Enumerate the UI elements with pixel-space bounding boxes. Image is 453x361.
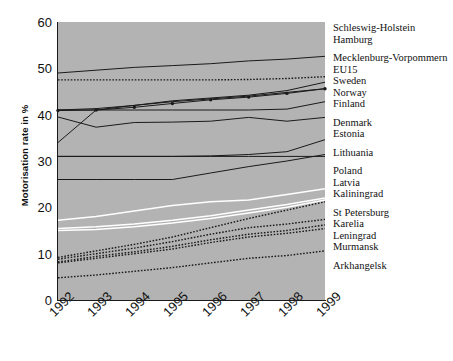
series-marker-sweden <box>247 95 250 98</box>
series-line-karelia <box>58 219 325 259</box>
series-marker-sweden <box>323 87 326 90</box>
legend-item-arkhangelsk: Arkhangelsk <box>333 260 451 272</box>
legend-group-1: Mecklenburg-VorpommernEU15SwedenNorwayFi… <box>333 52 451 110</box>
legend-item-lithuania: Lithuania <box>333 147 451 159</box>
legend-group-0: Schleswig-HolsteinHamburg <box>333 22 451 45</box>
series-marker-sweden <box>171 102 174 105</box>
series-marker-sweden <box>285 92 288 95</box>
legend-group-6: Arkhangelsk <box>333 260 451 272</box>
chart-legend: Schleswig-HolsteinHamburgMecklenburg-Vor… <box>333 22 451 278</box>
series-marker-sweden <box>209 98 212 101</box>
legend-group-2: DenmarkEstonia <box>333 117 451 140</box>
legend-item-kaliningrad: Kaliningrad <box>333 188 451 200</box>
legend-group-5: St PetersburgKareliaLeningradMurmansk <box>333 207 451 253</box>
series-line-hamburg <box>58 77 325 80</box>
legend-item-norway: Norway <box>333 87 451 99</box>
series-line-murmansk <box>58 229 325 263</box>
legend-item-hamburg: Hamburg <box>333 34 451 46</box>
series-line-denmark <box>58 140 325 157</box>
x-axis-line <box>57 300 326 301</box>
series-line-latvia <box>58 198 325 229</box>
legend-item-eu15: EU15 <box>333 64 451 76</box>
legend-item-murmansk: Murmansk <box>333 241 451 253</box>
legend-item-poland: Poland <box>333 165 451 177</box>
legend-item-denmark: Denmark <box>333 117 451 129</box>
series-line-arkhangelsk <box>58 251 325 278</box>
series-marker-sweden <box>133 106 136 109</box>
legend-item-mecklenburg-vorpommern: Mecklenburg-Vorpommern <box>333 52 451 64</box>
series-line-lithuania <box>58 155 325 180</box>
legend-item-karelia: Karelia <box>333 218 451 230</box>
legend-item-sweden: Sweden <box>333 75 451 87</box>
legend-item-leningrad: Leningrad <box>333 230 451 242</box>
legend-item-estonia: Estonia <box>333 128 451 140</box>
series-line-mecklenburg-vorpommern <box>58 82 325 142</box>
series-line-leningrad <box>58 225 325 262</box>
y-axis-line <box>57 22 58 301</box>
legend-item-finland: Finland <box>333 98 451 110</box>
series-line-finland <box>58 117 325 127</box>
legend-group-3: Lithuania <box>333 147 451 159</box>
legend-item-st-petersburg: St Petersburg <box>333 207 451 219</box>
legend-group-4: PolandLatviaKaliningrad <box>333 165 451 200</box>
chart-root: 6050403020100 Motorisation rate in % 199… <box>0 0 453 361</box>
legend-item-schleswig-holstein: Schleswig-Holstein <box>333 22 451 34</box>
series-line-schleswig-holstein <box>58 56 325 73</box>
legend-item-latvia: Latvia <box>333 177 451 189</box>
